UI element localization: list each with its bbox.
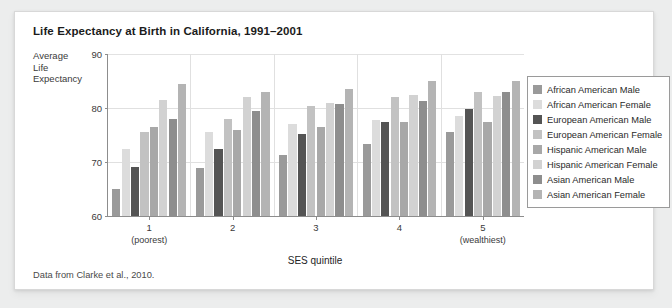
bar [317,127,325,216]
legend-item[interactable]: African American Female [533,97,662,112]
figure-page: Life Expectancy at Birth in California, … [0,0,672,308]
legend-label: European American Male [547,115,651,125]
y-tick-label-90: 90 [91,49,102,60]
bar-group-quintile-4: 4 [357,54,440,216]
y-tick-label-80: 80 [91,103,102,114]
legend-item[interactable]: Asian American Male [533,172,662,187]
bar [381,122,389,217]
x-tick-label-1: 1(poorest) [131,222,167,245]
figure-card: Life Expectancy at Birth in California, … [14,11,654,290]
legend-label: European American Female [547,130,662,140]
y-axis-label: Average Life Expectancy [33,50,91,85]
legend-swatch-icon [533,100,542,109]
bar-group-quintile-1: 1(poorest) [108,54,190,216]
bar [307,106,315,216]
bar [150,127,158,216]
bar-groups: 1(poorest)2345(wealthiest) [108,54,524,216]
bar [243,97,251,216]
bar [288,124,296,216]
x-tick-sublabel: (wealthiest) [460,235,506,245]
bar [428,81,436,216]
bar-group-quintile-3: 3 [274,54,357,216]
bar-group-quintile-5: 5(wealthiest) [441,54,524,216]
bar [298,134,306,216]
legend-swatch-icon [533,190,542,199]
x-tick-mark-4 [399,216,400,220]
legend-swatch-icon [533,130,542,139]
bar [279,155,287,216]
y-tick-label-70: 70 [91,157,102,168]
bar [205,132,213,216]
legend-item[interactable]: Hispanic American Female [533,157,662,172]
x-tick-label-5: 5(wealthiest) [460,222,506,245]
legend-swatch-icon [533,115,542,124]
x-tick-mark-1 [149,216,150,220]
legend-item[interactable]: Asian American Female [533,187,662,202]
bar [483,122,491,217]
legend-swatch-icon [533,85,542,94]
page-title: Life Expectancy at Birth in California, … [33,25,303,37]
bar [178,84,186,216]
legend-item[interactable]: European American Female [533,127,662,142]
bar [502,92,510,216]
bar [224,119,232,216]
bar [112,189,120,216]
x-tick-mark-3 [316,216,317,220]
y-axis-label-line-2: Life [33,62,91,74]
bar [391,97,399,216]
bar [326,103,334,216]
y-axis-label-line-3: Expectancy [33,73,91,85]
legend-swatch-icon [533,160,542,169]
legend-label: Asian American Female [547,190,645,200]
plot-area: 60708090 1(poorest)2345(wealthiest) [107,54,524,217]
bar [493,96,501,216]
x-tick-label-4: 4 [397,222,402,233]
bar [345,89,353,216]
bar [131,167,139,216]
x-tick-number: 5 [460,222,506,233]
legend-label: Hispanic American Female [547,160,658,170]
legend-label: African American Female [547,100,651,110]
legend-label: Asian American Male [547,175,634,185]
bar [159,100,167,216]
bar [122,149,130,217]
legend-label: African American Male [547,85,640,95]
bar [196,168,204,216]
bar [400,122,408,217]
x-tick-number: 1 [131,222,167,233]
y-axis-label-line-1: Average [33,50,91,62]
bar [372,120,380,216]
x-tick-number: 4 [397,222,402,233]
bar [169,119,177,216]
legend-swatch-icon [533,175,542,184]
bar [335,104,343,216]
bar [446,132,454,216]
x-axis-title: SES quintile [107,255,523,266]
bar [409,95,417,217]
y-tick-mark-60 [105,216,108,217]
source-note: Data from Clarke et al., 2010. [33,270,154,280]
bar [419,101,427,216]
bar [474,92,482,216]
x-tick-mark-2 [233,216,234,220]
bar [214,149,222,217]
x-tick-label-2: 2 [230,222,235,233]
bar [512,81,520,216]
legend-item[interactable]: African American Male [533,82,662,97]
bar [465,109,473,216]
legend-item[interactable]: Hispanic American Male [533,142,662,157]
x-tick-sublabel: (poorest) [131,235,167,245]
legend-label: Hispanic American Male [547,145,647,155]
x-tick-mark-5 [483,216,484,220]
legend-item[interactable]: European American Male [533,112,662,127]
x-tick-label-3: 3 [313,222,318,233]
legend: African American MaleAfrican American Fe… [527,76,670,208]
legend-swatch-icon [533,145,542,154]
bar [363,144,371,216]
x-tick-number: 3 [313,222,318,233]
y-tick-label-60: 60 [91,211,102,222]
bar [455,116,463,216]
bar-group-quintile-2: 2 [190,54,273,216]
bar [261,92,269,216]
x-tick-number: 2 [230,222,235,233]
